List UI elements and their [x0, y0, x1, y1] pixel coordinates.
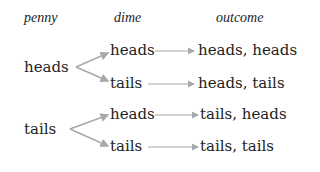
dime-heads-1: heads [110, 43, 155, 58]
header-dime: dime [114, 11, 141, 25]
penny-tails: tails [24, 122, 56, 137]
header-outcome: outcome [216, 11, 263, 25]
penny-heads: heads [24, 60, 69, 75]
outcome-tails-heads: tails, heads [200, 107, 287, 122]
dime-tails-2: tails [110, 139, 142, 154]
branch-arrow-heads-tails [76, 67, 108, 81]
header-penny: penny [24, 11, 57, 25]
outcome-tails-tails: tails, tails [200, 139, 274, 154]
outcome-heads-heads: heads, heads [198, 43, 297, 58]
dime-tails-1: tails [110, 76, 142, 91]
dime-heads-2: heads [110, 107, 155, 122]
outcome-heads-tails: heads, tails [198, 76, 285, 91]
branch-arrow-heads-heads [76, 53, 108, 67]
branch-arrow-tails-tails [70, 129, 108, 146]
branch-arrow-tails-heads [70, 115, 108, 129]
